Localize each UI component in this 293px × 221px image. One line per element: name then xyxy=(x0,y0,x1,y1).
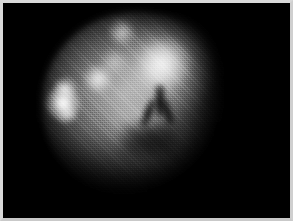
scan-image-viewer: Grayscale planar nuclear medicine scan s… xyxy=(0,0,293,221)
hot-spot-superior-small-focus xyxy=(109,20,135,46)
hot-spot-left-lateral-focus-upper xyxy=(54,78,76,100)
scan-plate xyxy=(3,3,290,218)
hot-spot-left-lateral-focus-lower xyxy=(57,104,77,124)
hot-spot-central-faint-focus xyxy=(101,49,127,75)
inferior-intensity-falloff xyxy=(3,128,290,218)
